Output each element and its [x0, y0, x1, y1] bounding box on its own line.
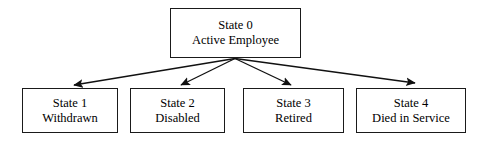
node-state-2-state-label: State 2: [160, 96, 194, 111]
node-state-2-name-label: Disabled: [155, 111, 199, 126]
node-state-0[interactable]: State 0 Active Employee: [170, 8, 301, 58]
state-transition-diagram: State 0 Active Employee State 1 Withdraw…: [0, 0, 490, 148]
edge-state0-to-state3: [235, 59, 291, 86]
node-state-1-state-label: State 1: [53, 96, 87, 111]
edge-state0-to-state1: [74, 59, 235, 86]
node-state-3[interactable]: State 3 Retired: [243, 88, 344, 133]
node-state-0-name-label: Active Employee: [192, 33, 279, 48]
node-state-1-name-label: Withdrawn: [42, 111, 98, 126]
node-state-4-state-label: State 4: [394, 96, 428, 111]
node-state-0-state-label: State 0: [218, 18, 252, 33]
node-state-4[interactable]: State 4 Died in Service: [356, 88, 466, 133]
node-state-1[interactable]: State 1 Withdrawn: [22, 88, 118, 133]
node-state-4-name-label: Died in Service: [372, 111, 450, 126]
node-state-3-name-label: Retired: [275, 111, 312, 126]
node-state-2[interactable]: State 2 Disabled: [130, 88, 225, 133]
edge-state0-to-state2: [181, 59, 235, 86]
node-state-3-state-label: State 3: [276, 96, 310, 111]
edge-state0-to-state4: [235, 59, 415, 84]
